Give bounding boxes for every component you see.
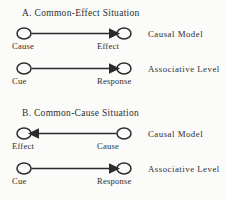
- panel-b-causal-row: Effect Cause Causal Model: [0, 124, 227, 156]
- node-label-left: Effect: [12, 141, 34, 151]
- tier-label-associative-level: Associative Level: [148, 64, 220, 74]
- node-label-right: Effect: [97, 41, 119, 51]
- panel-b-associative-row: Cue Response Associative Level: [0, 159, 227, 191]
- node-label-right: Response: [97, 176, 132, 186]
- node-label-left: Cause: [12, 41, 34, 51]
- tier-label-causal-model: Causal Model: [148, 129, 203, 139]
- tier-label-causal-model: Causal Model: [148, 29, 203, 39]
- node-label-right: Response: [97, 76, 132, 86]
- figure-canvas: A. Common-Effect Situation Cause Effect …: [0, 0, 227, 200]
- left-node-circle: [17, 163, 31, 174]
- panel-a-causal-row: Cause Effect Causal Model: [0, 24, 227, 56]
- node-label-right: Cause: [97, 141, 119, 151]
- right-node-circle: [117, 128, 131, 139]
- tier-label-associative-level: Associative Level: [148, 164, 220, 174]
- panel-b-heading: B. Common-Cause Situation: [22, 108, 139, 118]
- left-node-circle: [17, 28, 31, 39]
- node-label-left: Cue: [12, 176, 26, 186]
- panel-a-associative-row: Cue Response Associative Level: [0, 59, 227, 91]
- node-label-left: Cue: [12, 76, 26, 86]
- left-node-circle: [17, 63, 31, 74]
- panel-a-heading: A. Common-Effect Situation: [22, 8, 140, 18]
